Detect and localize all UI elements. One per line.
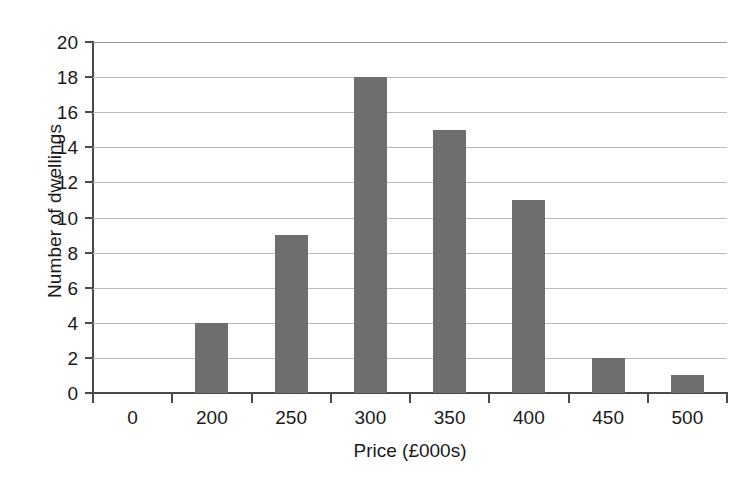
- plot-area: [93, 42, 727, 393]
- y-axis-tick: [85, 287, 93, 289]
- y-axis-tick: [85, 252, 93, 254]
- y-axis-tick: [85, 146, 93, 148]
- y-axis-tick-label: 2: [36, 349, 78, 368]
- gridline: [93, 77, 727, 78]
- bar: [592, 358, 625, 393]
- y-axis-tick: [85, 357, 93, 359]
- gridline: [93, 112, 727, 113]
- x-axis-tick: [171, 394, 173, 403]
- x-axis-tick-label: 300: [325, 408, 415, 427]
- gridline: [93, 323, 727, 324]
- gridline: [93, 288, 727, 289]
- gridline: [93, 147, 727, 148]
- x-axis-tick: [330, 394, 332, 403]
- gridline: [93, 218, 727, 219]
- y-axis-tick: [85, 181, 93, 183]
- y-axis-tick: [85, 217, 93, 219]
- x-axis-tick-label: 450: [563, 408, 653, 427]
- y-axis-tick-label: 8: [36, 244, 78, 263]
- y-axis-tick-label: 20: [36, 33, 78, 52]
- bar: [195, 323, 228, 393]
- gridline: [93, 253, 727, 254]
- y-axis-tick: [85, 76, 93, 78]
- y-axis-tick: [85, 322, 93, 324]
- y-axis-tick-label: 12: [36, 173, 78, 192]
- x-axis-tick: [488, 394, 490, 403]
- y-axis-tick-label: 14: [36, 138, 78, 157]
- x-axis-tick: [409, 394, 411, 403]
- bar: [671, 375, 704, 393]
- y-axis-tick: [85, 111, 93, 113]
- bar: [433, 130, 466, 393]
- y-axis-tick: [85, 41, 93, 43]
- gridline: [93, 358, 727, 359]
- x-axis-tick-label: 250: [246, 408, 336, 427]
- x-axis-tick-label: 500: [642, 408, 732, 427]
- x-axis-tick-label: 0: [88, 408, 178, 427]
- x-axis-tick: [726, 394, 728, 403]
- y-axis-tick-label: 16: [36, 103, 78, 122]
- x-axis-tick-label: 200: [167, 408, 257, 427]
- gridline: [93, 182, 727, 183]
- bar: [354, 77, 387, 393]
- histogram-figure: Number of dwellings 02468101214161820 02…: [0, 0, 750, 488]
- x-axis-tick-label: 350: [405, 408, 495, 427]
- x-axis-title: Price (£000s): [93, 440, 727, 462]
- y-axis-tick-label: 18: [36, 68, 78, 87]
- y-axis-tick-label: 6: [36, 279, 78, 298]
- y-axis-tick-label: 0: [36, 384, 78, 403]
- x-axis-tick: [647, 394, 649, 403]
- x-axis-tick: [92, 394, 94, 403]
- y-axis-tick-label: 10: [36, 209, 78, 228]
- bar: [512, 200, 545, 393]
- x-axis-tick-label: 400: [484, 408, 574, 427]
- x-axis-tick: [568, 394, 570, 403]
- bar: [275, 235, 308, 393]
- x-axis-tick: [251, 394, 253, 403]
- gridline: [93, 42, 727, 43]
- y-axis-tick-label: 4: [36, 314, 78, 333]
